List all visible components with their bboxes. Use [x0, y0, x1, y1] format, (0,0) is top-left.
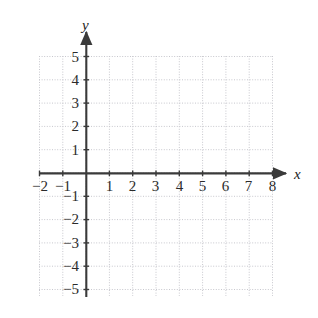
y-tick-label: −1	[57, 189, 79, 204]
coordinate-plane-canvas	[0, 0, 318, 318]
y-tick-label: −5	[57, 282, 79, 297]
x-tick-label: 4	[172, 179, 187, 194]
y-tick-label: 2	[64, 119, 79, 134]
y-tick-label: −3	[57, 236, 79, 251]
x-tick-label: 3	[148, 179, 163, 194]
x-tick-label: 1	[102, 179, 117, 194]
x-tick-label: 6	[218, 179, 233, 194]
y-axis-label: y	[82, 18, 89, 33]
x-tick-label: 8	[265, 179, 280, 194]
y-tick-label: 5	[64, 50, 79, 65]
y-tick-label: −4	[57, 259, 79, 274]
x-tick-label: 5	[195, 179, 210, 194]
y-tick-label: −2	[57, 212, 79, 227]
x-tick-label: 2	[125, 179, 140, 194]
x-axis-label: x	[294, 167, 301, 182]
y-tick-label: 4	[64, 73, 79, 88]
x-tick-label: 7	[241, 179, 256, 194]
coordinate-plane-figure: x y −2 −1 1 2 3 4 5 6 7 8 5 4 3 2 1 −1 −…	[0, 0, 318, 318]
y-tick-label: 3	[64, 96, 79, 111]
x-tick-label: −2	[29, 179, 51, 194]
y-tick-label: 1	[64, 143, 79, 158]
